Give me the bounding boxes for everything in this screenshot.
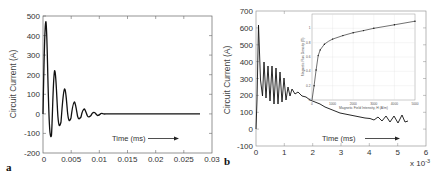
inset-bh-curve: 0 0.2 0.4 0.6 0.8 1 0 1000 2000 3000 400… bbox=[301, 14, 419, 110]
svg-text:0.025: 0.025 bbox=[174, 155, 195, 164]
x-tick-labels-b: 0 1 2 3 4 5 6 bbox=[254, 148, 429, 157]
svg-text:400: 400 bbox=[27, 32, 41, 41]
x-ticks-a bbox=[71, 16, 184, 153]
svg-text:0.015: 0.015 bbox=[117, 155, 138, 164]
svg-text:500: 500 bbox=[240, 41, 254, 50]
svg-text:0.6: 0.6 bbox=[306, 55, 311, 59]
svg-text:5000: 5000 bbox=[411, 102, 418, 106]
svg-text:200: 200 bbox=[240, 91, 254, 100]
panel-b: 700 600 500 400 300 200 100 0 -100 0 1 2… bbox=[222, 7, 430, 168]
arrow-head-icon bbox=[174, 137, 179, 141]
svg-text:2: 2 bbox=[310, 148, 315, 157]
svg-text:4: 4 bbox=[367, 148, 372, 157]
inset-y-label: Magnetic Flux Density (T) bbox=[301, 38, 305, 77]
figure: 500 400 300 200 100 0 -100 -200 0 0.005 … bbox=[0, 0, 440, 179]
svg-text:0.8: 0.8 bbox=[306, 41, 311, 45]
time-annotation-b: Time (ms) bbox=[322, 134, 356, 143]
time-annotation-a: Time (ms) bbox=[112, 134, 146, 143]
svg-text:300: 300 bbox=[240, 75, 254, 84]
svg-text:100: 100 bbox=[240, 108, 254, 117]
svg-text:300: 300 bbox=[27, 51, 41, 60]
y-axis-label-a: Circuit Current (A) bbox=[8, 50, 18, 119]
inset-x-label: Magnetic Field Intensity, H (A/m) bbox=[339, 106, 388, 110]
svg-text:0: 0 bbox=[42, 155, 47, 164]
svg-text:1: 1 bbox=[309, 26, 311, 30]
arrow-head-icon bbox=[395, 137, 400, 141]
svg-text:600: 600 bbox=[240, 24, 254, 33]
svg-text:4000: 4000 bbox=[391, 102, 398, 106]
series-line-a bbox=[43, 22, 200, 137]
svg-text:-100: -100 bbox=[237, 142, 254, 151]
svg-text:500: 500 bbox=[27, 12, 41, 21]
svg-text:3000: 3000 bbox=[370, 102, 377, 106]
svg-text:-100: -100 bbox=[24, 129, 41, 138]
svg-text:1: 1 bbox=[282, 148, 287, 157]
panel-label-a: a bbox=[6, 161, 12, 173]
svg-text:200: 200 bbox=[27, 71, 41, 80]
svg-text:6: 6 bbox=[424, 148, 429, 157]
axes-box-a bbox=[43, 16, 212, 153]
svg-text:0.4: 0.4 bbox=[306, 69, 311, 73]
svg-text:400: 400 bbox=[240, 58, 254, 67]
svg-text:0.2: 0.2 bbox=[306, 84, 311, 88]
svg-text:0.02: 0.02 bbox=[148, 155, 164, 164]
x-tick-labels-a: 0 0.005 0.01 0.015 0.02 0.025 0.03 bbox=[42, 155, 221, 164]
svg-text:0.005: 0.005 bbox=[61, 155, 82, 164]
panel-a: 500 400 300 200 100 0 -100 -200 0 0.005 … bbox=[6, 12, 220, 173]
svg-text:-200: -200 bbox=[24, 149, 41, 158]
y-tick-labels-a: 500 400 300 200 100 0 -100 -200 bbox=[24, 12, 41, 158]
svg-text:700: 700 bbox=[240, 7, 254, 16]
svg-text:0.01: 0.01 bbox=[92, 155, 108, 164]
svg-text:0: 0 bbox=[36, 110, 41, 119]
svg-text:1000: 1000 bbox=[329, 102, 336, 106]
inset-y-tick-labels: 0 0.2 0.4 0.6 0.8 1 bbox=[306, 26, 311, 102]
svg-text:0: 0 bbox=[249, 125, 254, 134]
panel-label-b: b bbox=[224, 155, 230, 167]
y-tick-labels-b: 700 600 500 400 300 200 100 0 -100 bbox=[237, 7, 254, 151]
inset-x-tick-labels: 0 1000 2000 3000 4000 5000 bbox=[311, 102, 419, 106]
svg-text:2000: 2000 bbox=[350, 102, 357, 106]
svg-text:0: 0 bbox=[254, 148, 259, 157]
x-multiplier-b: x 10-3 bbox=[410, 158, 430, 168]
svg-text:5: 5 bbox=[395, 148, 400, 157]
svg-text:0.03: 0.03 bbox=[204, 155, 220, 164]
svg-text:3: 3 bbox=[339, 148, 344, 157]
svg-text:0: 0 bbox=[311, 102, 313, 106]
y-axis-label-b: Circuit Current (A) bbox=[222, 46, 232, 115]
svg-text:100: 100 bbox=[27, 90, 41, 99]
